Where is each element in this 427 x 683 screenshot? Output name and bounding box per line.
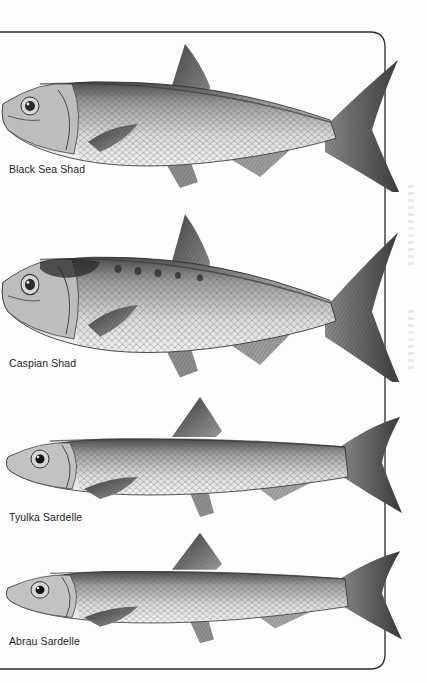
fish-illustration-tyulka-sardelle bbox=[0, 395, 410, 525]
species-label: Tyulka Sardelle bbox=[9, 511, 82, 523]
illustration-page: Black Sea Shad Caspian Shad Tyulka Sarde… bbox=[0, 0, 427, 683]
fish-illustration-abrau-sardelle bbox=[0, 531, 410, 646]
species-label: Abrau Sardelle bbox=[9, 635, 80, 647]
species-label: Caspian Shad bbox=[9, 357, 76, 369]
species-label: Black Sea Shad bbox=[9, 163, 85, 175]
